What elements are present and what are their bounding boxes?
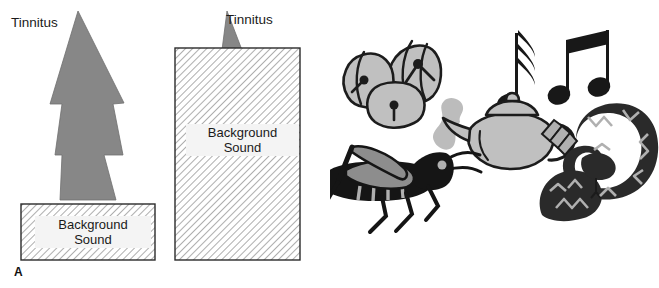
panel-b-graphics [330,0,659,288]
tinnitus-label-right: Tinnitus [226,12,273,27]
figure-root: Tinnitus Tinnitus Background Sound Backg… [0,0,659,288]
tinnitus-label-left: Tinnitus [11,15,58,30]
background-sound-label-small: Background Sound [35,216,151,248]
background-sound-line2: Sound [224,140,262,155]
sleigh-bells-icon [343,41,441,128]
background-sound-line2: Sound [74,232,112,247]
tinnitus-spike-large [50,11,124,200]
rattlesnake-icon [540,103,658,221]
cricket-icon [330,146,481,232]
background-sound-line1: Background [208,125,277,140]
background-sound-label-large: Background Sound [186,124,299,156]
panel-label-a: A [14,265,23,279]
background-sound-line1: Background [58,217,127,232]
panel-a: Tinnitus Tinnitus Background Sound Backg… [0,0,330,288]
panel-b: B [330,0,659,288]
